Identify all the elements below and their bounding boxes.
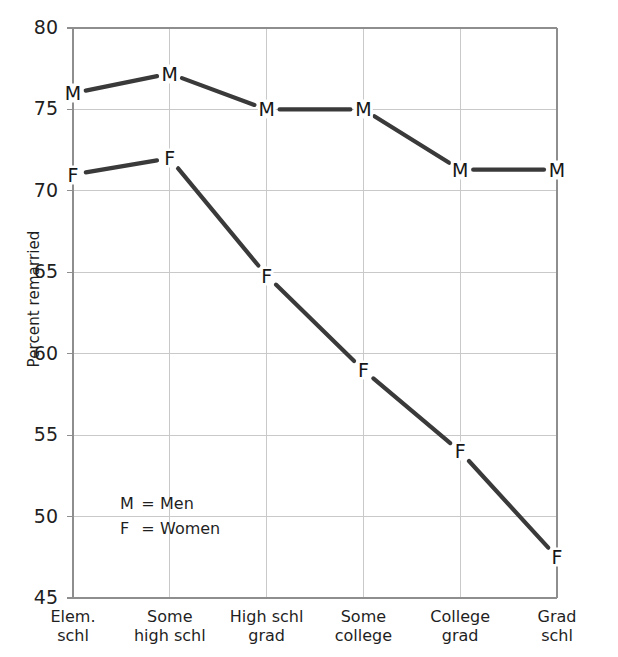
y-axis-tick-label: 80 <box>10 18 58 37</box>
series-segment <box>276 285 354 361</box>
y-axis-tick-label: 60 <box>10 344 58 363</box>
data-point-marker: M <box>451 160 469 179</box>
y-axis-tick-label: 70 <box>10 181 58 200</box>
legend-equals-men: = <box>136 492 160 517</box>
legend-label-women: Women <box>160 519 220 538</box>
series-segment <box>86 76 157 90</box>
y-axis-tick-label: 45 <box>10 588 58 607</box>
series-segment <box>182 78 254 105</box>
legend-label-men: Men <box>160 494 194 513</box>
y-axis-tick-label: 65 <box>10 262 58 281</box>
series-segment <box>469 461 548 548</box>
data-point-marker: M <box>257 100 275 119</box>
data-point-marker: F <box>357 361 370 380</box>
chart-container: Percent remarried 4550556065707580 Elem.… <box>0 0 618 657</box>
data-point-marker: M <box>161 64 179 83</box>
data-point-marker: M <box>548 160 566 179</box>
data-point-marker: M <box>354 100 372 119</box>
series-segment <box>86 160 157 172</box>
legend-key-women: F <box>120 517 136 542</box>
legend-key-men: M <box>120 492 136 517</box>
y-axis-label: Percent remarried <box>25 199 43 399</box>
data-point-marker: F <box>454 442 467 461</box>
legend-item-women: F=Women <box>120 517 220 542</box>
series-segment <box>373 378 450 443</box>
data-point-marker: F <box>67 165 80 184</box>
data-point-marker: M <box>64 84 82 103</box>
series-segment <box>374 116 449 163</box>
x-axis-tick-label-line: Grad <box>477 608 618 627</box>
data-series-lines <box>86 76 548 548</box>
data-point-marker: F <box>551 548 564 567</box>
y-axis-tick-label: 75 <box>10 99 58 118</box>
legend-equals-women: = <box>136 517 160 542</box>
legend: M=Men F=Women <box>120 492 220 542</box>
data-point-marker: F <box>163 149 176 168</box>
y-axis-tick-label: 55 <box>10 425 58 444</box>
y-axis-tick-label: 50 <box>10 507 58 526</box>
data-point-marker: F <box>260 266 273 285</box>
legend-item-men: M=Men <box>120 492 220 517</box>
x-axis-tick-label-line: schl <box>477 627 618 646</box>
series-segment <box>178 168 258 265</box>
plot-area <box>0 0 618 657</box>
x-axis-tick-label: Gradschl <box>477 608 618 646</box>
